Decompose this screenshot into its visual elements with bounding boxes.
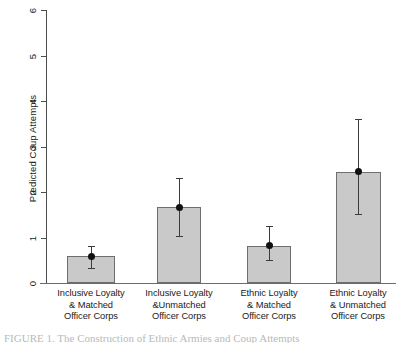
error-bar-cap-upper-2 (176, 178, 183, 179)
y-tick-3 (41, 147, 46, 148)
y-tick-1 (41, 238, 46, 239)
y-tick-label-3: 3 (27, 141, 38, 153)
point-estimate-marker-2 (176, 204, 183, 211)
x-tick-label-3-line-1: Ethnic Loyalty (220, 288, 318, 300)
figure-caption-text: FIGURE 1. The Construction of Ethnic Arm… (4, 332, 403, 343)
x-tick-label-3-line-2: & Matched (220, 300, 318, 312)
x-tick-label-1: Inclusive Loyalty & Matched Officer Corp… (42, 288, 140, 323)
x-tick-label-1-line-1: Inclusive Loyalty (42, 288, 140, 300)
x-tick-label-2-line-1: Inclusive Loyalty (130, 288, 228, 300)
y-tick-label-5: 5 (27, 50, 38, 62)
x-tick-label-4: Ethnic Loyalty & Unmatched Officer Corps (309, 288, 403, 323)
error-bar-cap-lower-2 (176, 236, 183, 237)
y-tick-label-2: 2 (27, 187, 38, 199)
x-tick-label-4-line-1: Ethnic Loyalty (309, 288, 403, 300)
x-tick-label-4-line-2: & Unmatched (309, 300, 403, 312)
x-tick-label-3: Ethnic Loyalty & Matched Officer Corps (220, 288, 318, 323)
point-estimate-marker-3 (266, 242, 273, 249)
error-bar-cap-lower-1 (88, 268, 95, 269)
x-axis-line (40, 283, 396, 284)
error-bar-cap-upper-4 (355, 119, 362, 120)
x-tick-label-2-line-3: Officer Corps (130, 311, 228, 323)
y-tick-label-4: 4 (27, 96, 38, 108)
y-tick-4 (41, 101, 46, 102)
y-axis-line (46, 10, 47, 284)
y-tick-label-1: 1 (27, 232, 38, 244)
predicted-coup-attempts-chart: Predicted Coup Attempts 0 1 2 3 4 5 6 In… (0, 0, 403, 343)
x-tick-label-3-line-3: Officer Corps (220, 311, 318, 323)
x-tick-label-1-line-3: Officer Corps (42, 311, 140, 323)
y-tick-label-0: 0 (27, 278, 38, 290)
y-tick-6 (41, 10, 46, 11)
point-estimate-marker-1 (88, 253, 95, 260)
x-tick-label-2: Inclusive Loyalty &Unmatched Officer Cor… (130, 288, 228, 323)
error-bar-cap-upper-1 (88, 246, 95, 247)
figure-caption: FIGURE 1. The Construction of Ethnic Arm… (0, 331, 403, 343)
error-bar-cap-lower-3 (266, 260, 273, 261)
y-tick-5 (41, 56, 46, 57)
x-tick-label-1-line-2: & Matched (42, 300, 140, 312)
y-tick-2 (41, 192, 46, 193)
error-bar-line-4 (358, 119, 359, 214)
error-bar-cap-lower-4 (355, 214, 362, 215)
y-tick-label-6: 6 (27, 5, 38, 17)
error-bar-cap-upper-3 (266, 226, 273, 227)
x-tick-label-2-line-2: &Unmatched (130, 300, 228, 312)
x-tick-label-4-line-3: Officer Corps (309, 311, 403, 323)
